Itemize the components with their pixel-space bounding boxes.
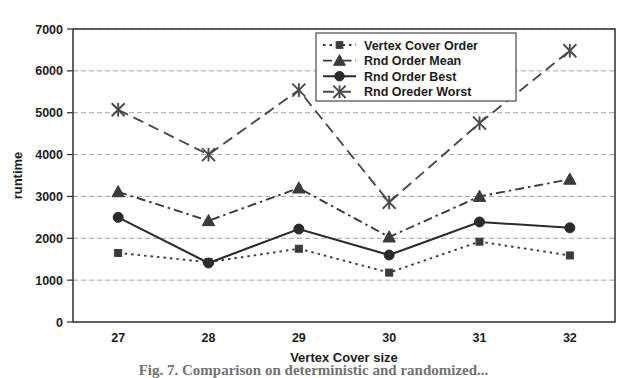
series-line: [118, 179, 570, 237]
x-tick-label: 27: [111, 331, 125, 345]
series-1: [115, 238, 574, 276]
x-tick-label: 28: [202, 331, 216, 345]
y-tick-label: 6000: [35, 64, 63, 78]
marker-square: [115, 249, 122, 256]
marker-square: [295, 245, 302, 252]
marker-asterisk: [473, 116, 486, 130]
runtime-vs-vertex-cover-size-chart: 0100020003000400050006000700027282930313…: [0, 0, 627, 378]
series-line: [118, 217, 570, 263]
marker-square: [476, 238, 483, 245]
marker-triangle: [112, 186, 124, 197]
legend-label: Vertex Cover Order: [364, 39, 478, 53]
marker-asterisk: [383, 195, 396, 209]
y-tick-label: 0: [56, 316, 63, 330]
marker-circle: [565, 223, 575, 233]
marker-square: [336, 42, 343, 49]
marker-asterisk: [292, 83, 305, 97]
x-tick-label: 29: [292, 331, 306, 345]
figure-caption: Fig. 7. Comparison on deterministic and …: [0, 360, 627, 378]
marker-circle: [204, 258, 214, 268]
series-2: [112, 173, 576, 242]
marker-circle: [113, 212, 123, 222]
marker-circle: [294, 224, 304, 234]
legend-label: Rnd Order Mean: [364, 54, 461, 68]
x-tick-label: 30: [382, 331, 396, 345]
marker-asterisk: [563, 44, 576, 58]
x-axis: 272829303132: [111, 331, 577, 345]
marker-square: [386, 269, 393, 276]
marker-triangle: [564, 173, 576, 184]
y-tick-label: 4000: [35, 148, 63, 162]
x-tick-label: 32: [563, 331, 577, 345]
figure-container: 0100020003000400050006000700027282930313…: [0, 0, 627, 378]
series-3: [113, 212, 575, 268]
marker-triangle: [383, 231, 395, 242]
marker-circle: [335, 71, 345, 81]
y-tick-label: 3000: [35, 190, 63, 204]
marker-triangle: [293, 182, 305, 193]
y-tick-label: 1000: [35, 274, 63, 288]
marker-asterisk: [112, 103, 125, 117]
marker-square: [566, 252, 573, 259]
x-tick-label: 31: [473, 331, 487, 345]
y-axis-label: runtime: [10, 152, 25, 200]
marker-circle: [475, 217, 485, 227]
legend-label: Rnd Order Best: [364, 70, 457, 84]
y-tick-label: 7000: [35, 23, 63, 37]
y-tick-label: 2000: [35, 232, 63, 246]
legend-label: Rnd Oreder Worst: [364, 85, 472, 99]
marker-circle: [384, 250, 394, 260]
series-line: [118, 242, 570, 273]
legend: Vertex Cover OrderRnd Order MeanRnd Orde…: [316, 33, 516, 101]
y-tick-label: 5000: [35, 106, 63, 120]
